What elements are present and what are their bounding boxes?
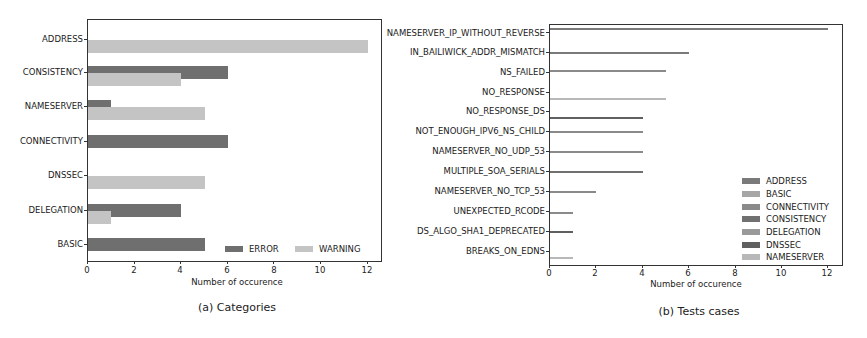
- bar-warning: [88, 40, 368, 53]
- chart-b-ylabel: BREAKS_ON_EDNS: [466, 246, 545, 256]
- chart-b-xtick: 12: [817, 268, 837, 278]
- chart-b-ytick: [546, 171, 549, 172]
- chart-b-ylabel: NS_FAILED: [500, 67, 545, 77]
- chart-a-ylabel: CONNECTIVITY: [20, 136, 83, 146]
- legend-item-warning: WARNING: [295, 244, 360, 254]
- legend-label: CONSISTENCY: [766, 214, 826, 224]
- chart-a-xlabel: Number of occurence: [187, 277, 287, 287]
- chart-b-ylabel: NO_RESPONSE_DS: [466, 106, 545, 116]
- legend-item-basic: BASIC: [742, 189, 791, 199]
- chart-a-xtick: 8: [264, 265, 284, 275]
- legend-swatch-address-icon: [742, 178, 760, 184]
- chart-a-ylabel: CONSISTENCY: [23, 67, 83, 77]
- chart-a-xtick-mark: [180, 261, 181, 264]
- chart-a-ylabel: DELEGATION: [28, 205, 83, 215]
- chart-a-xtick: 0: [77, 265, 97, 275]
- chart-b-ylabel: NAMESERVER_NO_UDP_53: [432, 146, 545, 156]
- bar-warning: [88, 73, 181, 86]
- chart-b-ytick: [546, 151, 549, 152]
- bar-error: [88, 238, 205, 251]
- chart-b-xtick: 6: [678, 268, 698, 278]
- chart-a-caption: (a) Categories: [182, 301, 292, 314]
- chart-b-ytick: [546, 52, 549, 53]
- chart-a-ytick: [84, 175, 87, 176]
- chart-a-xtick-mark: [227, 261, 228, 264]
- chart-b-xtick: 0: [539, 268, 559, 278]
- chart-a-xtick-mark: [320, 261, 321, 264]
- chart-b-ylabel: NO_RESPONSE: [482, 87, 545, 97]
- chart-a-ytick: [84, 106, 87, 107]
- chart-b-ytick: [546, 251, 549, 252]
- bar-ds-algo-sha1-deprecated: [550, 231, 573, 233]
- legend-label: DNSSEC: [766, 240, 801, 250]
- legend-label: ERROR: [249, 244, 279, 254]
- chart-b-ytick: [546, 231, 549, 232]
- chart-a-ytick: [84, 72, 87, 73]
- chart-b-ytick: [546, 32, 549, 33]
- legend-label: CONNECTIVITY: [766, 202, 829, 212]
- legend-item-address: ADDRESS: [742, 176, 807, 186]
- bar-breaks-on-edns: [550, 257, 573, 259]
- chart-b-xtick: 10: [771, 268, 791, 278]
- chart-a-xtick-mark: [273, 261, 274, 264]
- chart-b-ylabel: DS_ALGO_SHA1_DEPRECATED: [417, 226, 545, 236]
- chart-a-xtick-mark: [367, 261, 368, 264]
- legend-label: BASIC: [766, 189, 791, 199]
- legend-swatch-dnssec-icon: [742, 242, 760, 248]
- chart-a-xtick: 6: [217, 265, 237, 275]
- bar-warning: [88, 211, 111, 224]
- legend-swatch-consistency-icon: [742, 216, 760, 222]
- legend-item-connectivity: CONNECTIVITY: [742, 202, 829, 212]
- chart-b-ylabel: IN_BAILIWICK_ADDR_MISMATCH: [410, 47, 545, 57]
- chart-b-ytick: [546, 211, 549, 212]
- chart-b-xtick: 2: [585, 268, 605, 278]
- chart-a-ylabel: ADDRESS: [42, 34, 83, 44]
- legend-item-dnssec: DNSSEC: [742, 240, 801, 250]
- chart-a-ytick: [84, 39, 87, 40]
- chart-a-xtick-mark: [87, 261, 88, 264]
- legend-item-consistency: CONSISTENCY: [742, 214, 826, 224]
- bar-multiple-soa-serials: [550, 171, 643, 173]
- chart-b-ytick: [546, 72, 549, 73]
- bar-in-bailiwick-addr-mismatch: [550, 52, 689, 54]
- bar-warning: [88, 107, 205, 120]
- bar-nameserver-no-udp-53: [550, 151, 643, 153]
- legend-swatch-basic-icon: [742, 191, 760, 197]
- legend-label: DELEGATION: [766, 227, 821, 237]
- chart-a-ytick: [84, 244, 87, 245]
- bar-nameserver-ip-without-reverse: [550, 28, 828, 30]
- legend-item-nameserver: NAMESERVER: [742, 252, 824, 262]
- chart-a-ylabel: BASIC: [58, 239, 83, 249]
- chart-a-ylabel: NAMESERVER: [25, 101, 83, 111]
- legend-swatch-nameserver-icon: [742, 254, 760, 260]
- chart-b-ylabel: MULTIPLE_SOA_SERIALS: [444, 166, 545, 176]
- chart-b-xlabel: Number of occurence: [646, 279, 746, 289]
- bar-error: [88, 135, 228, 148]
- legend-label: WARNING: [319, 244, 360, 254]
- chart-a-xtick: 10: [310, 265, 330, 275]
- chart-a-xtick: 12: [357, 265, 377, 275]
- chart-a-xtick-mark: [134, 261, 135, 264]
- chart-b-ylabel: NAMESERVER_IP_WITHOUT_REVERSE: [387, 28, 545, 38]
- chart-a-ytick: [84, 210, 87, 211]
- legend-label: NAMESERVER: [766, 252, 824, 262]
- chart-b-ylabel: UNEXPECTED_RCODE: [453, 206, 545, 216]
- chart-b-ylabel: NAMESERVER_NO_TCP_53: [434, 186, 545, 196]
- legend-swatch-error-icon: [225, 246, 243, 252]
- chart-a-xtick: 4: [170, 265, 190, 275]
- legend-label: ADDRESS: [766, 176, 807, 186]
- bar-no-response-ds: [550, 117, 643, 119]
- bar-warning: [88, 176, 205, 189]
- bar-not-enough-ipv6-ns-child: [550, 131, 643, 133]
- bar-unexpected-rcode: [550, 212, 573, 214]
- chart-a-ytick: [84, 141, 87, 142]
- chart-b-ytick: [546, 131, 549, 132]
- chart-b-caption: (b) Tests cases: [644, 305, 754, 318]
- chart-b-xtick: 8: [725, 268, 745, 278]
- bar-nameserver-no-tcp-53: [550, 191, 596, 193]
- chart-a-xtick: 2: [124, 265, 144, 275]
- legend-swatch-warning-icon: [295, 246, 313, 252]
- legend-item-error: ERROR: [225, 244, 279, 254]
- bar-no-response: [550, 98, 666, 100]
- chart-a-ylabel: DNSSEC: [48, 170, 83, 180]
